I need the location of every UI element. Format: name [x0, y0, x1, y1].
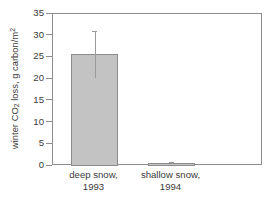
- y-tick-label: 30: [33, 30, 44, 40]
- x-axis-category-label: shallow snow,1994: [121, 169, 221, 192]
- x-axis-category-line: shallow snow,: [121, 169, 221, 181]
- y-axis-title-mid: loss, g carbon/m: [10, 32, 20, 104]
- y-axis-title: winter CO2 loss, g carbon/m2: [9, 28, 20, 149]
- error-bar-cap: [169, 162, 174, 163]
- error-bar-line: [95, 31, 96, 77]
- y-tick-label: 5: [39, 138, 44, 148]
- y-axis-title-lead: winter CO: [10, 108, 20, 150]
- y-tick-label: 15: [33, 95, 44, 105]
- y-tick-label: 10: [33, 117, 44, 127]
- y-tick-label: 35: [33, 8, 44, 18]
- x-axis-category-line: 1994: [121, 181, 221, 193]
- y-tick-label: 20: [33, 73, 44, 83]
- y-tick-label: 25: [33, 51, 44, 61]
- y-axis-title-container: winter CO2 loss, g carbon/m2: [0, 0, 30, 178]
- plot-area: [52, 13, 262, 165]
- y-axis-title-subscript: 2: [14, 104, 21, 108]
- chart-figure: winter CO2 loss, g carbon/m2 05101520253…: [0, 0, 273, 199]
- error-bar-cap: [92, 31, 97, 32]
- y-axis-title-superscript: 2: [9, 28, 16, 32]
